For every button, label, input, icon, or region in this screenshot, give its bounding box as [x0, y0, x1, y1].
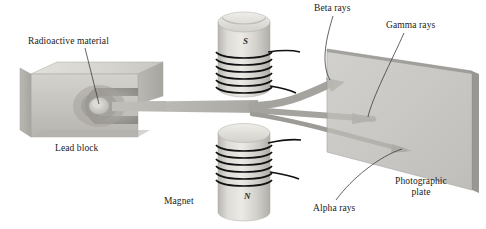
label-pole-south: S — [243, 36, 248, 46]
label-gamma-rays: Gamma rays — [386, 20, 435, 30]
label-photographic-plate-line2: plate — [412, 187, 431, 197]
photographic-plate — [327, 49, 479, 193]
label-photographic-plate-line1: Photographic — [395, 176, 447, 186]
label-lead-block: Lead block — [55, 143, 98, 153]
radioactivity-diagram: Radioactive material Lead block Magnet B… — [0, 0, 486, 229]
label-pole-north: N — [244, 191, 251, 201]
label-magnet: Magnet — [164, 196, 194, 206]
lower-magnet — [216, 124, 301, 222]
upper-magnet-lead-top — [268, 51, 300, 53]
lower-magnet-lead-bottom — [270, 172, 299, 179]
lower-magnet-lead-top — [268, 140, 301, 143]
lead-block — [20, 62, 166, 137]
label-beta-rays: Beta rays — [314, 3, 351, 13]
upper-magnet-lead-bottom — [270, 86, 296, 93]
upper-magnet — [216, 12, 300, 97]
label-photographic-plate: Photographic plate — [384, 176, 458, 197]
label-alpha-rays: Alpha rays — [313, 203, 355, 213]
ray-beam-trunk — [112, 100, 258, 113]
label-radioactive-material: Radioactive material — [28, 36, 109, 46]
